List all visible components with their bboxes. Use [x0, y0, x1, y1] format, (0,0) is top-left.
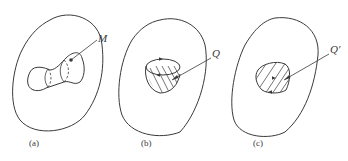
outer-region-c — [232, 18, 318, 137]
hatch-fill-b — [146, 66, 186, 94]
manifold-tube — [28, 53, 85, 91]
cross-section-2-hidden — [64, 60, 69, 82]
panel-b: Q (b) — [119, 19, 220, 148]
caption-a: (a) — [29, 138, 39, 148]
outer-region-a — [13, 15, 103, 131]
orientation-arrow-b — [159, 57, 163, 61]
caption-b: (b) — [141, 138, 152, 148]
orientation-arrow-b2 — [156, 73, 160, 77]
symbol-label-b: Q — [212, 47, 220, 59]
panel-c: Q' (c) — [232, 18, 341, 148]
orientation-arrow-c2 — [272, 76, 276, 80]
outer-region-b — [119, 19, 206, 136]
cross-section-1-hidden — [48, 69, 51, 87]
caption-c: (c) — [253, 138, 263, 148]
symbol-label-a: M — [97, 32, 108, 44]
panel-a: M (a) — [13, 15, 108, 148]
cross-section-1 — [45, 69, 48, 87]
symbol-label-c: Q' — [330, 43, 341, 55]
figure-canvas: M (a) Q (b) — [0, 0, 348, 161]
leader-line-a — [71, 40, 97, 60]
leader-line-c — [284, 54, 329, 80]
